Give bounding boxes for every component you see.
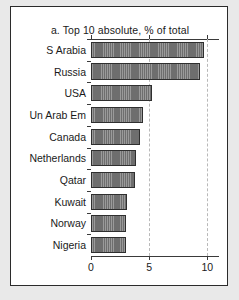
- category-label-nigeria: Nigeria: [53, 239, 86, 251]
- category-label-canada: Canada: [49, 131, 86, 143]
- xtick-bottom-0: [91, 256, 92, 260]
- figure-page: a. Top 10 absolute, % of total S ArabiaR…: [0, 0, 239, 300]
- xtick-label-5: 5: [146, 261, 152, 273]
- xtick-label-10: 10: [202, 261, 214, 273]
- category-label-netherlands: Netherlands: [29, 152, 86, 164]
- category-axis-labels: S ArabiaRussiaUSAUn Arab EmCanadaNetherl…: [11, 39, 86, 256]
- category-label-norway: Norway: [50, 217, 86, 229]
- category-label-un-arab-em: Un Arab Em: [29, 109, 86, 121]
- xtick-bottom-10: [207, 256, 208, 260]
- axis-line-bottom: [91, 256, 219, 257]
- chart-title: a. Top 10 absolute, % of total: [11, 24, 229, 36]
- category-label-usa: USA: [64, 87, 86, 99]
- category-label-s-arabia: S Arabia: [46, 44, 86, 56]
- xtick-bottom-5: [149, 256, 150, 260]
- category-label-russia: Russia: [54, 66, 86, 78]
- x-axis-tick-labels: 0510: [91, 39, 219, 256]
- xtick-label-0: 0: [88, 261, 94, 273]
- category-label-qatar: Qatar: [60, 174, 86, 186]
- chart-panel: a. Top 10 absolute, % of total S ArabiaR…: [10, 6, 228, 286]
- category-label-kuwait: Kuwait: [54, 196, 86, 208]
